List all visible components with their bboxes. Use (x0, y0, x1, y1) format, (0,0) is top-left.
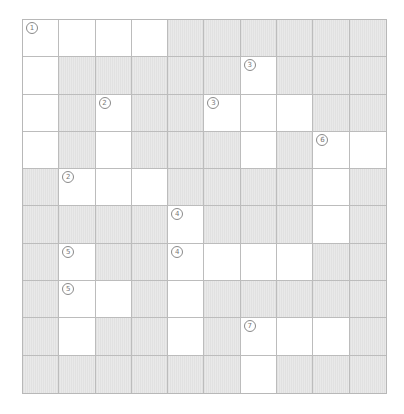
open-cell[interactable] (277, 318, 313, 355)
open-cell[interactable] (23, 95, 59, 132)
blocked-cell (168, 169, 204, 206)
blocked-cell (168, 132, 204, 169)
blocked-cell (313, 281, 349, 318)
blocked-cell (241, 169, 277, 206)
blocked-cell (59, 206, 95, 243)
open-cell[interactable] (168, 318, 204, 355)
blocked-cell (277, 169, 313, 206)
blocked-cell (23, 318, 59, 355)
blocked-cell (313, 57, 349, 94)
open-cell[interactable] (59, 20, 95, 57)
blocked-cell (168, 95, 204, 132)
open-cell[interactable] (23, 132, 59, 169)
open-cell[interactable] (96, 20, 132, 57)
clue-number: 3 (207, 97, 219, 109)
blocked-cell (23, 206, 59, 243)
open-cell[interactable] (277, 95, 313, 132)
blocked-cell (350, 206, 386, 243)
blocked-cell (132, 132, 168, 169)
blocked-cell (204, 206, 240, 243)
open-cell[interactable] (277, 244, 313, 281)
blocked-cell (23, 281, 59, 318)
open-cell[interactable] (59, 318, 95, 355)
blocked-cell (277, 20, 313, 57)
open-cell[interactable]: 3 (204, 95, 240, 132)
clue-number: 4 (171, 208, 183, 220)
blocked-cell (313, 244, 349, 281)
blocked-cell (350, 244, 386, 281)
blocked-cell (59, 57, 95, 94)
blocked-cell (350, 318, 386, 355)
open-cell[interactable]: 6 (313, 132, 349, 169)
blocked-cell (241, 281, 277, 318)
blocked-cell (132, 57, 168, 94)
open-cell[interactable] (241, 132, 277, 169)
blocked-cell (204, 20, 240, 57)
blocked-cell (96, 318, 132, 355)
open-cell[interactable]: 4 (168, 206, 204, 243)
open-cell[interactable] (313, 318, 349, 355)
blocked-cell (59, 95, 95, 132)
blocked-cell (132, 95, 168, 132)
open-cell[interactable]: 5 (59, 281, 95, 318)
blocked-cell (168, 20, 204, 57)
open-cell[interactable] (96, 132, 132, 169)
blocked-cell (313, 356, 349, 393)
blocked-cell (277, 206, 313, 243)
blocked-cell (277, 132, 313, 169)
blocked-cell (241, 206, 277, 243)
blocked-cell (204, 169, 240, 206)
open-cell[interactable]: 2 (59, 169, 95, 206)
blocked-cell (168, 57, 204, 94)
blocked-cell (23, 169, 59, 206)
blocked-cell (350, 57, 386, 94)
open-cell[interactable] (132, 169, 168, 206)
open-cell[interactable]: 1 (23, 20, 59, 57)
clue-number: 2 (99, 97, 111, 109)
clue-number: 3 (244, 59, 256, 71)
open-cell[interactable]: 4 (168, 244, 204, 281)
clue-number: 7 (244, 320, 256, 332)
open-cell[interactable] (313, 206, 349, 243)
blocked-cell (204, 356, 240, 393)
open-cell[interactable] (241, 244, 277, 281)
blocked-cell (132, 206, 168, 243)
blocked-cell (350, 95, 386, 132)
blocked-cell (350, 169, 386, 206)
blocked-cell (204, 281, 240, 318)
blocked-cell (23, 244, 59, 281)
blocked-cell (96, 244, 132, 281)
blocked-cell (59, 356, 95, 393)
open-cell[interactable] (96, 281, 132, 318)
open-cell[interactable] (168, 281, 204, 318)
open-cell[interactable] (313, 169, 349, 206)
open-cell[interactable] (23, 57, 59, 94)
blocked-cell (168, 356, 204, 393)
blocked-cell (204, 318, 240, 355)
blocked-cell (313, 95, 349, 132)
open-cell[interactable] (350, 132, 386, 169)
blocked-cell (23, 356, 59, 393)
blocked-cell (59, 132, 95, 169)
blocked-cell (132, 318, 168, 355)
open-cell[interactable] (132, 20, 168, 57)
blocked-cell (313, 20, 349, 57)
open-cell[interactable] (204, 244, 240, 281)
crossword-grid: 13236245457 (22, 19, 387, 394)
blocked-cell (132, 244, 168, 281)
clue-number: 5 (62, 246, 74, 258)
open-cell[interactable]: 7 (241, 318, 277, 355)
blocked-cell (132, 281, 168, 318)
blocked-cell (132, 356, 168, 393)
clue-number: 6 (316, 134, 328, 146)
open-cell[interactable]: 5 (59, 244, 95, 281)
clue-number: 1 (26, 22, 38, 34)
open-cell[interactable]: 2 (96, 95, 132, 132)
open-cell[interactable] (241, 95, 277, 132)
blocked-cell (277, 57, 313, 94)
blocked-cell (96, 356, 132, 393)
open-cell[interactable] (241, 356, 277, 393)
open-cell[interactable] (96, 169, 132, 206)
open-cell[interactable]: 3 (241, 57, 277, 94)
blocked-cell (96, 206, 132, 243)
